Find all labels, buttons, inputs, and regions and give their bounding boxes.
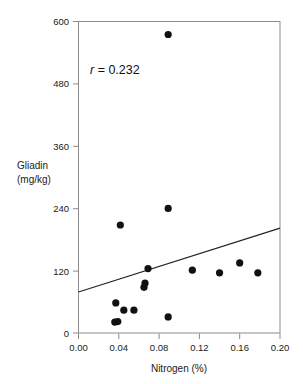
x-tick-label-012: 0.12	[190, 342, 209, 353]
data-point	[189, 267, 196, 274]
data-point	[120, 307, 127, 314]
y-tick-label-360: 360	[53, 141, 69, 152]
data-point	[130, 307, 137, 314]
data-point	[114, 318, 121, 325]
data-point	[216, 269, 223, 276]
data-point	[165, 205, 172, 212]
data-point	[112, 299, 119, 306]
data-point	[165, 31, 172, 38]
correlation-annotation: r = 0.232	[90, 63, 140, 77]
data-point	[141, 280, 148, 287]
y-tick-label-600: 600	[53, 16, 69, 27]
y-tick-label-0: 0	[64, 328, 69, 339]
plot-svg: 600 480 360 240 120 0 0.00 0.04 0.08 0.1…	[0, 0, 303, 384]
x-tick-label-016: 0.16	[230, 342, 249, 353]
y-axis-title-line1: Gliadin	[17, 160, 48, 171]
data-point	[144, 265, 151, 272]
svg-text:r = 0.232: r = 0.232	[90, 63, 140, 77]
y-tick-label-120: 120	[53, 266, 69, 277]
x-tick-label-004: 0.04	[110, 342, 129, 353]
x-tick-label-020: 0.20	[271, 342, 290, 353]
data-point	[117, 221, 124, 228]
y-axis-title-line2: (mg/kg)	[17, 174, 51, 185]
x-axis-title: Nitrogen (%)	[151, 363, 207, 374]
chart-background	[0, 0, 303, 384]
x-tick-label-000: 0.00	[69, 342, 88, 353]
scatter-chart: 600 480 360 240 120 0 0.00 0.04 0.08 0.1…	[0, 0, 303, 384]
data-point	[236, 259, 243, 266]
data-point	[165, 313, 172, 320]
correlation-value: = 0.232	[94, 63, 140, 77]
x-tick-label-008: 0.08	[150, 342, 169, 353]
y-tick-label-240: 240	[53, 203, 69, 214]
y-tick-label-480: 480	[53, 78, 69, 89]
data-point	[254, 269, 261, 276]
